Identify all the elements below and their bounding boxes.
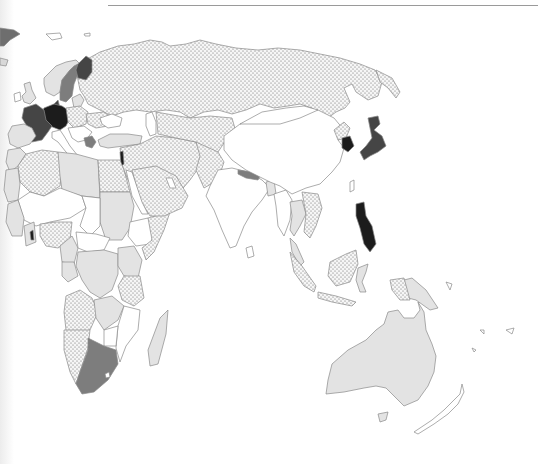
islands-pacific-4[interactable]	[472, 348, 476, 352]
country-south-korea[interactable]	[342, 136, 354, 152]
country-myanmar[interactable]	[274, 190, 292, 236]
country-ireland[interactable]	[14, 92, 21, 102]
country-australia[interactable]	[326, 302, 436, 406]
country-greece[interactable]	[84, 136, 96, 148]
country-thailand[interactable]	[290, 200, 306, 236]
country-dr-congo[interactable]	[76, 250, 118, 298]
country-uk[interactable]	[22, 82, 36, 104]
country-tanzania[interactable]	[118, 276, 144, 306]
country-gabon-congo[interactable]	[62, 262, 78, 282]
country-taiwan[interactable]	[350, 180, 354, 192]
country-poland[interactable]	[66, 106, 88, 128]
country-borneo[interactable]	[328, 250, 358, 286]
country-baltics[interactable]	[72, 94, 84, 108]
country-kenya[interactable]	[118, 246, 142, 278]
country-india[interactable]	[206, 168, 270, 248]
country-tasmania[interactable]	[378, 412, 388, 422]
country-madagascar[interactable]	[148, 310, 168, 366]
country-russia[interactable]	[76, 40, 382, 118]
country-greenland[interactable]	[0, 28, 20, 46]
country-mauritania[interactable]	[4, 168, 20, 202]
world-map	[0, 0, 538, 464]
country-franz-josef[interactable]	[84, 33, 90, 36]
country-ghana-mark[interactable]	[30, 230, 34, 240]
caspian-sea	[146, 112, 156, 136]
country-algeria[interactable]	[18, 150, 62, 196]
country-philippines[interactable]	[356, 202, 376, 252]
country-spain[interactable]	[8, 124, 36, 148]
islands-pacific-2[interactable]	[480, 330, 484, 334]
country-japan[interactable]	[360, 116, 386, 160]
country-svalbard[interactable]	[46, 33, 62, 40]
country-java[interactable]	[318, 292, 356, 306]
country-sumatra[interactable]	[290, 252, 316, 292]
map-svg	[0, 0, 538, 464]
country-mali-niger[interactable]	[18, 188, 86, 226]
country-sulawesi[interactable]	[356, 264, 368, 292]
country-iceland[interactable]	[0, 58, 8, 66]
country-zimbabwe[interactable]	[104, 326, 118, 346]
islands-pacific-1[interactable]	[446, 282, 452, 290]
islands-pacific-3[interactable]	[506, 328, 514, 334]
country-sri-lanka[interactable]	[246, 246, 254, 258]
